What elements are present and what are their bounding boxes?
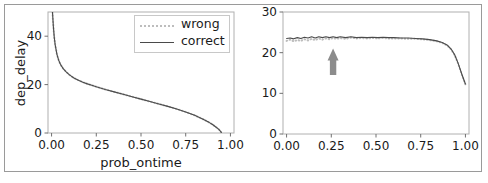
legend-swatch-wrong-dotted-line	[140, 20, 174, 30]
x-tick-label: 1.00	[217, 138, 244, 152]
x-tick-label: 0.75	[407, 139, 434, 153]
chart-panel-taxi-out: taxi_out prob_ontime wrong correct	[244, 0, 488, 183]
y-tick-label: 20	[262, 46, 277, 60]
series-line-correct	[287, 37, 466, 84]
y-tick-label: 20	[27, 78, 42, 92]
x-tick-label: 0.25	[318, 139, 345, 153]
legend-item-wrong[interactable]: wrong	[135, 16, 229, 33]
x-tick-label: 1.00	[452, 139, 479, 153]
x-tick-label: 0.50	[363, 139, 390, 153]
x-tick-label: 0.25	[83, 138, 110, 152]
y-tick-label: 10	[262, 86, 277, 100]
y-tick-label: 0	[269, 127, 277, 141]
x-tick-label: 0.00	[38, 138, 65, 152]
y-tick-label: 0	[34, 126, 42, 140]
plot-area-taxi-out	[244, 0, 488, 183]
series-line-wrong	[287, 38, 466, 85]
y-tick-label: 30	[262, 5, 277, 19]
x-tick-label: 0.75	[172, 138, 199, 152]
legend-swatch-correct-solid-line	[140, 37, 174, 47]
legend-item-correct[interactable]: correct	[135, 33, 229, 50]
legend-dep-delay: wrong correct	[134, 15, 230, 53]
x-tick-label: 0.00	[273, 139, 300, 153]
legend-label-correct: correct	[181, 35, 225, 48]
figure-container: dep_delay prob_ontime wrong correct taxi…	[0, 0, 488, 183]
legend-label-wrong: wrong	[181, 18, 220, 31]
up-arrow-annotation-icon	[328, 49, 339, 75]
x-axis-label-prob-ontime: prob_ontime	[100, 155, 182, 170]
x-tick-label: 0.50	[128, 138, 155, 152]
y-axis-label-dep-delay: dep_delay	[13, 39, 28, 106]
y-tick-label: 40	[27, 29, 42, 43]
